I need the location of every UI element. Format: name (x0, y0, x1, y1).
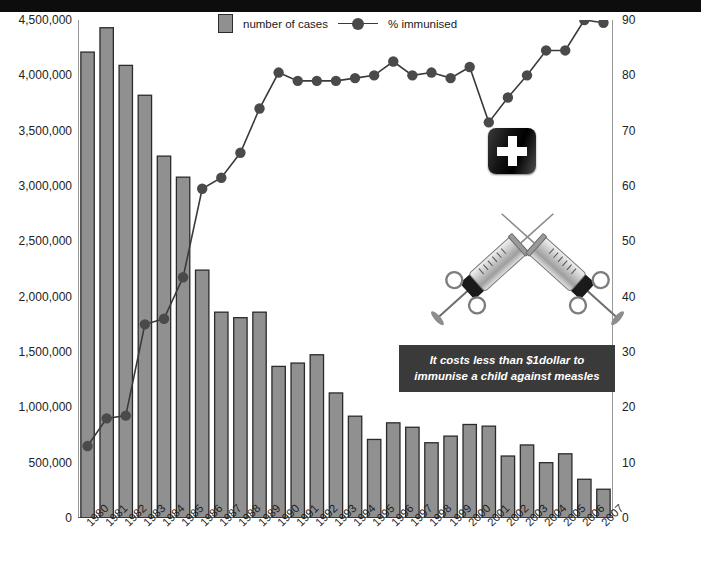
bar-1982 (119, 65, 132, 518)
right-tick-label-40: 40 (622, 290, 635, 304)
line-marker-1982 (121, 410, 131, 420)
right-tick-label-80: 80 (622, 68, 635, 82)
right-tick-label-90: 90 (622, 13, 635, 27)
line-marker-1990 (273, 67, 283, 77)
x-axis-tick-labels: 1980198119821983198419851986198719881989… (78, 520, 613, 575)
bar-1993 (329, 393, 342, 518)
line-marker-1993 (331, 76, 341, 86)
left-tick-label-4000000: 4,000,000 (19, 68, 72, 82)
left-tick-label-1000000: 1,000,000 (19, 400, 72, 414)
right-axis-tick-labels: 0102030405060708090 (622, 20, 662, 518)
line-marker-1989 (254, 103, 264, 113)
line-marker-2001 (484, 117, 494, 127)
right-tick-label-0: 0 (622, 511, 629, 525)
left-tick-label-1500000: 1,500,000 (19, 345, 72, 359)
line-marker-1997 (407, 70, 417, 80)
line-marker-1988 (235, 148, 245, 158)
top-black-band (0, 0, 701, 12)
line-marker-1984 (159, 314, 169, 324)
line-marker-1987 (216, 173, 226, 183)
line-marker-2003 (522, 70, 532, 80)
bars-group (81, 28, 610, 518)
bar-1986 (196, 270, 209, 518)
left-tick-label-500000: 500,000 (29, 456, 72, 470)
line-marker-1996 (388, 56, 398, 66)
line-marker-1983 (140, 319, 150, 329)
line-marker-2004 (541, 45, 551, 55)
right-tick-label-70: 70 (622, 124, 635, 138)
left-tick-label-2000000: 2,000,000 (19, 290, 72, 304)
line-marker-1994 (350, 73, 360, 83)
line-marker-1991 (293, 76, 303, 86)
line-marker-1980 (82, 441, 92, 451)
bar-1987 (215, 312, 228, 518)
left-tick-label-2500000: 2,500,000 (19, 234, 72, 248)
bar-1984 (157, 156, 170, 518)
bar-1983 (138, 95, 151, 518)
plot-svg (78, 20, 613, 518)
callout-box: It costs less than $1dollar to immunise … (399, 345, 615, 392)
bar-1981 (100, 28, 113, 518)
right-tick-label-20: 20 (622, 400, 635, 414)
bar-1992 (310, 355, 323, 518)
line-marker-1992 (312, 76, 322, 86)
left-tick-label-3000000: 3,000,000 (19, 179, 72, 193)
line-marker-1999 (445, 73, 455, 83)
left-tick-label-4500000: 4,500,000 (19, 13, 72, 27)
line-marker-2007 (598, 20, 608, 28)
right-tick-label-30: 30 (622, 345, 635, 359)
bar-1985 (176, 177, 189, 518)
left-axis-tick-labels: 0500,0001,000,0001,500,0002,000,0002,500… (0, 20, 72, 518)
line-marker-1985 (178, 272, 188, 282)
chart-page: number of cases % immunised 0500,0001,00… (0, 0, 701, 575)
right-tick-label-10: 10 (622, 456, 635, 470)
line-marker-2002 (503, 92, 513, 102)
line-marker-1981 (101, 413, 111, 423)
left-tick-label-0: 0 (65, 511, 72, 525)
line-marker-1998 (426, 67, 436, 77)
plot-area (78, 20, 613, 518)
right-tick-label-60: 60 (622, 179, 635, 193)
line-marker-1995 (369, 70, 379, 80)
line-marker-2005 (560, 45, 570, 55)
line-marker-1986 (197, 184, 207, 194)
bar-1990 (272, 366, 285, 518)
bar-1988 (234, 318, 247, 518)
line-marker-2000 (465, 62, 475, 72)
left-tick-label-3500000: 3,500,000 (19, 124, 72, 138)
bar-1991 (291, 363, 304, 518)
bar-1989 (253, 312, 266, 518)
right-tick-label-50: 50 (622, 234, 635, 248)
